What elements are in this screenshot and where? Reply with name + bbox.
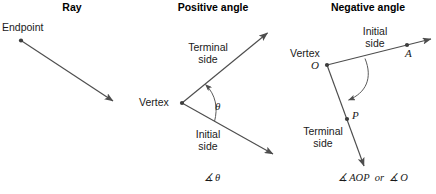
panel-title-positive-angle: Positive angle [167,2,259,14]
label-negative-initial-side-line2: side [352,38,398,50]
ray-diagram [19,38,113,101]
label-negative-terminal-side-line1: Terminal [296,126,350,138]
negative-angle-arc [349,59,369,101]
label-endpoint: Endpoint [2,22,43,34]
panel-title-ray: Ray [42,2,102,14]
label-point-a: A [405,48,412,60]
ray-endpoint-dot [19,38,23,42]
label-positive-initial-side-line1: Initial [182,129,234,141]
panel-title-negative-angle: Negative angle [318,2,418,14]
point-p-dot [345,117,349,121]
label-negative-terminal-side-line2: side [296,138,350,150]
label-positive-initial-side-line2: side [182,141,234,153]
label-positive-terminal-side-line1: Terminal [176,42,240,54]
trigonometry-angles-figure: Ray Positive angle Negative angle Endpoi… [0,0,436,194]
label-negative-initial-side-line1: Initial [352,26,398,38]
label-theta: θ [215,101,220,113]
label-positive-terminal-side-line2: side [176,54,240,66]
label-point-p: P [352,110,359,122]
label-point-o: O [311,60,319,72]
positive-vertex-dot [180,101,184,105]
label-positive-vertex: Vertex [139,97,169,109]
notation-negative-angle: ∡ AOP or ∡ O [318,172,428,184]
ray-line [21,41,113,102]
negative-vertex-dot [325,63,329,67]
label-negative-vertex: Vertex [290,48,320,60]
notation-positive-angle: ∡ θ [182,172,242,184]
